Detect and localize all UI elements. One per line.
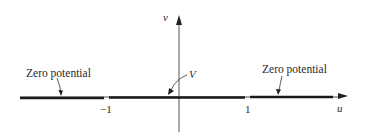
right-annotation-arrowhead-icon — [276, 89, 281, 95]
center-annotation-arrowhead-icon — [168, 88, 174, 95]
right-annotation-arrow-icon — [279, 76, 282, 91]
right-zero-potential-label: Zero potential — [262, 63, 327, 76]
left-annotation-arrowhead-icon — [59, 90, 64, 96]
u-axis-arrow-icon — [338, 93, 348, 99]
v-axis-label: v — [163, 11, 168, 23]
potential-diagram: v u −1 1 Zero potential Zero potential V — [0, 0, 365, 138]
tick-label-one: 1 — [245, 103, 251, 115]
left-zero-potential-label: Zero potential — [26, 67, 91, 80]
u-axis-label: u — [337, 102, 343, 114]
tick-label-minus-one: −1 — [100, 103, 112, 115]
center-v-label: V — [189, 68, 197, 80]
v-axis-arrow-icon — [176, 15, 182, 25]
